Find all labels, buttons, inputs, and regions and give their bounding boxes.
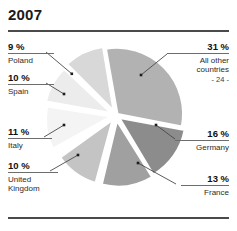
label-united-kingdom-percent: 10 % (8, 160, 58, 171)
label-spain[interactable]: 10 % Spain (8, 72, 54, 96)
label-spain-name: Spain (8, 87, 54, 97)
label-all-other-countries-underline (167, 53, 229, 54)
leader-dot-italy (63, 124, 66, 127)
label-united-kingdom-underline (8, 172, 58, 173)
label-poland-name: Poland (8, 56, 54, 66)
label-spain-underline (8, 84, 54, 85)
label-france[interactable]: 13 % France (181, 173, 229, 197)
label-all-other-countries[interactable]: 31 % All other countries - 24 - (167, 41, 229, 84)
leader-dot-france (137, 162, 140, 165)
label-germany-percent: 16 % (175, 128, 229, 139)
leader-dot-uk (77, 154, 80, 157)
leader-dot-spain (63, 93, 66, 96)
label-france-name: France (181, 188, 229, 198)
label-poland-percent: 9 % (8, 41, 54, 52)
label-france-percent: 13 % (181, 173, 229, 184)
leader-dot-germany (155, 124, 158, 127)
chart-root: 2007 (0, 0, 237, 231)
label-spain-percent: 10 % (8, 72, 54, 83)
label-all-other-countries-percent: 31 % (167, 41, 229, 52)
page-title: 2007 (8, 6, 42, 23)
label-italy-underline (8, 138, 52, 139)
label-poland-underline (8, 53, 54, 54)
label-all-other-countries-name-line2: countries (167, 65, 229, 75)
label-all-other-countries-name-line1: All other (167, 56, 229, 66)
label-italy-name: Italy (8, 141, 52, 151)
label-united-kingdom-name-line2: Kingdom (8, 184, 58, 194)
label-all-other-countries-note: - 24 - (167, 75, 229, 84)
label-poland[interactable]: 9 % Poland (8, 41, 54, 65)
divider-top (8, 30, 229, 32)
label-france-underline (181, 185, 229, 186)
divider-bottom (8, 217, 229, 219)
label-united-kingdom-name-line1: United (8, 175, 58, 185)
label-united-kingdom[interactable]: 10 % United Kingdom (8, 160, 58, 194)
leader-dot-other (140, 74, 143, 77)
label-italy-percent: 11 % (8, 126, 52, 137)
leader-dot-poland (71, 73, 74, 76)
label-germany-name: Germany (175, 143, 229, 153)
pie-chart-area: 9 % Poland 10 % Spain 11 % Italy 10 % Un… (0, 33, 237, 215)
label-italy[interactable]: 11 % Italy (8, 126, 52, 150)
label-germany[interactable]: 16 % Germany (175, 128, 229, 152)
label-germany-underline (175, 140, 229, 141)
